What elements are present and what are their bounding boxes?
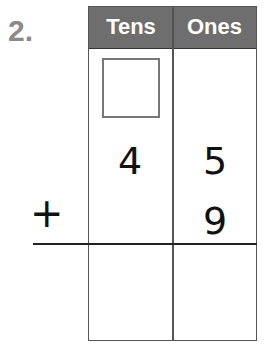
- top-addend-tens-digit: 4: [118, 139, 142, 183]
- sum-line: [33, 243, 257, 245]
- bottom-addend-ones-digit: 9: [203, 199, 227, 243]
- tens-column-header: Tens: [89, 7, 173, 47]
- top-addend-ones-digit: 5: [203, 139, 227, 183]
- plus-sign: +: [30, 193, 64, 233]
- place-value-chart: Tens Ones 4 5 9: [88, 6, 257, 341]
- regroup-answer-box[interactable]: [102, 58, 160, 118]
- problem-number: 2.: [8, 14, 33, 48]
- answer-ones-cell[interactable]: [174, 247, 256, 340]
- ones-column-header: Ones: [173, 7, 256, 47]
- answer-tens-cell[interactable]: [89, 247, 172, 340]
